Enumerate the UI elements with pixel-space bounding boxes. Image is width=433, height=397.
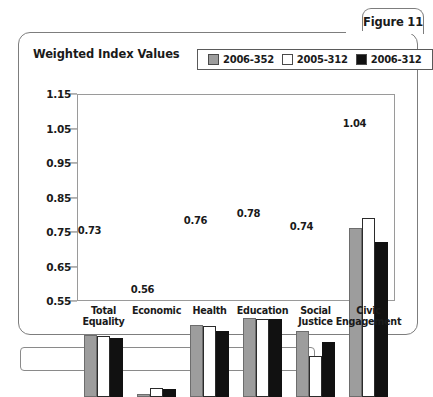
bar	[203, 326, 216, 397]
bar-group	[130, 94, 183, 397]
y-axis-tick-mark	[70, 197, 77, 198]
bar	[256, 319, 269, 397]
bar-group	[183, 94, 236, 397]
y-axis-tick-label: 1.15	[31, 88, 71, 100]
y-axis-tick-label: 0.65	[31, 261, 71, 273]
bar-group	[342, 94, 395, 397]
bar	[296, 331, 309, 397]
bar	[309, 356, 322, 397]
y-axis-tick-mark	[70, 300, 77, 301]
bar	[97, 336, 110, 397]
figure-number-label: Figure 11	[363, 15, 423, 29]
figure-card: Weighted Index Values 2006-3522005-31220…	[18, 32, 418, 335]
plot-wrapper: 1.151.050.950.850.750.650.550.73Total Eq…	[19, 33, 419, 336]
bar-value-label: 0.78	[237, 208, 260, 219]
y-axis-tick-mark	[70, 93, 77, 94]
bar	[163, 389, 176, 397]
x-axis-category-label: Civic Engagement	[334, 305, 403, 327]
y-axis-tick-label: 0.75	[31, 226, 71, 238]
bar	[84, 335, 97, 397]
y-axis-tick-mark	[70, 128, 77, 129]
bar-value-label: 0.74	[290, 221, 313, 232]
y-axis-tick-label: 1.05	[31, 123, 71, 135]
bar	[269, 319, 282, 397]
bar-group	[236, 94, 289, 397]
y-axis-tick-label: 0.55	[31, 295, 71, 307]
bar-value-label: 0.76	[184, 215, 207, 226]
bar-value-label: 0.56	[131, 284, 154, 295]
bar	[110, 338, 123, 397]
bar-group	[77, 94, 130, 397]
bar-value-label: 1.04	[343, 118, 366, 129]
bar-value-label: 0.73	[78, 225, 101, 236]
y-axis-tick-mark	[70, 266, 77, 267]
bar	[322, 342, 335, 397]
bar	[190, 325, 203, 397]
tab-seam	[346, 31, 402, 34]
y-axis-tick-label: 0.85	[31, 192, 71, 204]
y-axis-tick-mark	[70, 162, 77, 163]
bar	[137, 394, 150, 397]
bar	[216, 331, 229, 397]
y-axis-tick-mark	[70, 231, 77, 232]
bar	[150, 388, 163, 397]
bar	[243, 318, 256, 397]
bar-group	[289, 94, 342, 397]
y-axis-tick-label: 0.95	[31, 157, 71, 169]
